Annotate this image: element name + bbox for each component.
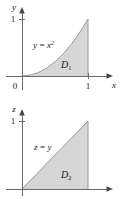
equation-label-d2: z=y [33, 142, 52, 152]
figure-d1-parabola-region: y x 1 1 0 y=x2 D1 [0, 0, 124, 100]
horizontal-axis-arrow-icon [107, 186, 114, 192]
equation-rhs-exponent: 2 [51, 40, 54, 46]
equation-operator: = [40, 40, 45, 50]
x-axis-label: x [111, 80, 116, 90]
y-tick-label-1: 1 [11, 14, 16, 24]
figure-d2-canvas: z 1 z=y D2 [0, 100, 124, 199]
z-axis-arrow-icon [19, 109, 25, 116]
z-axis-label: z [11, 104, 16, 114]
region-label-subscript: 2 [68, 174, 71, 181]
x-tick-label-1: 1 [86, 81, 91, 91]
y-axis-label: y [11, 2, 16, 12]
equation-rhs-base: y [47, 142, 52, 152]
equation-operator: = [40, 142, 45, 152]
x-axis-arrow-icon [107, 73, 114, 79]
origin-label: 0 [13, 81, 18, 91]
region-label-subscript: 1 [68, 64, 71, 71]
shaded-region-d1 [22, 19, 88, 76]
equation-lhs: z [33, 142, 38, 152]
figure-d2-triangle-region: z 1 z=y D2 [0, 100, 124, 199]
figure-d1-canvas: y x 1 1 0 y=x2 D1 [0, 0, 124, 100]
z-tick-label-1: 1 [11, 116, 16, 126]
equation-lhs: y [32, 40, 37, 50]
equation-label-d1: y=x2 [32, 40, 54, 51]
y-axis-arrow-icon [19, 7, 25, 14]
